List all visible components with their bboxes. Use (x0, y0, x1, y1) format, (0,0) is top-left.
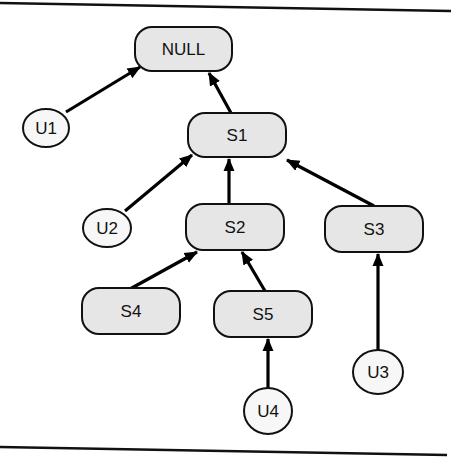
edge-s3-to-s1 (287, 160, 374, 206)
node-label: U1 (35, 119, 57, 138)
node-label: S5 (253, 305, 274, 324)
node-u1: U1 (23, 109, 69, 147)
node-s3: S3 (325, 206, 423, 252)
node-u2: U2 (83, 209, 131, 247)
top-rule (0, 3, 451, 11)
bottom-rule (0, 447, 447, 455)
node-label: S2 (225, 218, 246, 237)
node-null: NULL (135, 27, 232, 71)
node-s5: S5 (214, 291, 312, 337)
edge-u2-to-s1 (125, 155, 192, 211)
node-label: S4 (121, 302, 142, 321)
edge-s4-to-s2 (130, 252, 197, 289)
edge-s1-to-null (209, 73, 231, 113)
node-u4: U4 (244, 388, 292, 434)
node-s4: S4 (82, 288, 180, 334)
node-label: U4 (257, 402, 279, 421)
tree-diagram: NULLS1S2S3S4S5U1U2U3U4 (0, 0, 451, 459)
node-label: S1 (227, 126, 248, 145)
node-label: NULL (162, 40, 205, 59)
node-label: U2 (96, 219, 118, 238)
node-s2: S2 (186, 204, 284, 250)
edge-s5-to-s2 (242, 252, 265, 291)
node-s1: S1 (188, 113, 286, 157)
node-label: U3 (367, 363, 389, 382)
node-label: S3 (364, 220, 385, 239)
edge-u1-to-null (66, 67, 140, 112)
node-u3: U3 (353, 350, 403, 394)
nodes: NULLS1S2S3S4S5U1U2U3U4 (23, 27, 423, 434)
